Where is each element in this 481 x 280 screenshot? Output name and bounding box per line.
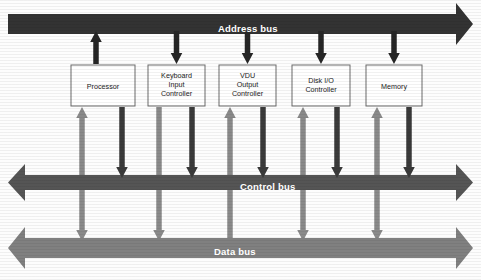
memory-label: Memory: [366, 82, 422, 91]
processor-control-bus-connector: [116, 107, 128, 178]
memory-data-bus-connector: [371, 107, 383, 241]
data-bus-label: Data bus: [214, 247, 256, 257]
address-bus-label: Address bus: [218, 24, 278, 34]
processor-label: Processor: [71, 82, 135, 91]
keyboard-input-controller-label: Keyboard Input Controller: [148, 71, 205, 99]
keyboard-input-controller-address-bus-connector: [171, 31, 183, 64]
keyboard-input-controller-data-bus-connector: [153, 107, 165, 241]
control-bus-label: Control bus: [240, 182, 296, 192]
vdu-output-controller-data-bus-connector: [224, 107, 236, 241]
disk-io-controller-data-bus-connector: [297, 107, 309, 241]
disk-io-controller-address-bus-connector: [315, 31, 327, 64]
vdu-output-controller-label: VDU Output Controller: [219, 71, 276, 99]
memory-control-bus-connector: [403, 107, 415, 178]
diagram-canvas: ProcessorKeyboard Input ControllerVDU Ou…: [0, 0, 481, 280]
bus-architecture-diagram: [0, 0, 481, 280]
vdu-output-controller-control-bus-connector: [257, 107, 269, 178]
keyboard-input-controller-control-bus-connector: [186, 107, 198, 178]
disk-io-controller-label: Disk I/O Controller: [292, 76, 350, 94]
vdu-output-controller-address-bus-connector: [242, 31, 254, 64]
disk-io-controller-control-bus-connector: [331, 107, 343, 178]
processor-data-bus-connector: [76, 107, 88, 241]
memory-address-bus-connector: [388, 31, 400, 64]
processor-address-bus-connector: [90, 31, 102, 64]
